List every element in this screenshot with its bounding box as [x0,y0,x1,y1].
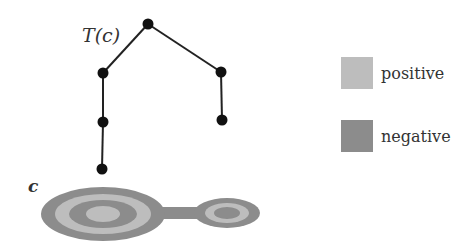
tree-edge [221,72,222,120]
region-c-shape [41,187,260,241]
tree-node-r2 [217,115,228,126]
tree-label: T(c) [82,24,120,46]
tree-node-l2 [98,117,109,128]
positive-swatch [341,57,373,89]
tree-edge [102,122,103,169]
shape-label: c [28,176,38,196]
small-ring-2 [214,207,240,219]
large-ring-3 [86,206,120,222]
tree-node-l3 [97,164,108,175]
tree-node-r1 [216,67,227,78]
tree-node-l1 [98,68,109,79]
legend-label-negative: negative [381,127,451,146]
legend-item-positive: positive [341,57,444,89]
negative-swatch [341,120,373,152]
tree-edge [148,24,221,72]
tree-node-root [143,19,154,30]
legend-item-negative: negative [341,120,451,152]
legend-label-positive: positive [381,64,444,83]
